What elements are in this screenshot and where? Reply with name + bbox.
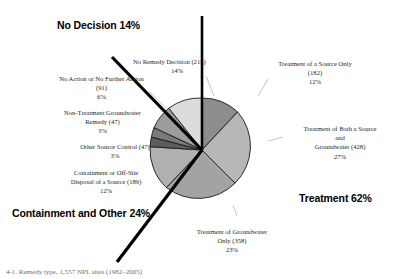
callout-no-action: No Action or No Further Action (91) 6% [33, 74, 170, 102]
callout-line: Containment or Off-Site [42, 168, 170, 177]
callout-line: and [284, 133, 396, 142]
callout-percent: 3% [60, 151, 170, 160]
group-heading-containment-and-other: Containment and Other 24% [12, 207, 150, 219]
callout-count: (182) [255, 68, 375, 77]
group-heading-no-decision: No Decision 14% [57, 19, 140, 31]
group-heading-treatment: Treatment 62% [299, 192, 372, 204]
callout-count: Groundwater (428) [284, 142, 396, 151]
callout-percent: 3% [35, 126, 170, 135]
callout-percent: 23% [171, 245, 293, 254]
callout-count: (91) [33, 83, 170, 92]
callout-treatment-groundwater-only: Treatment of Groundwater Only (358) 23% [171, 227, 293, 255]
callout-line: No Remedy Decision (215) [133, 57, 221, 66]
callout-line: Other Source Control (47) [60, 142, 170, 151]
callout-no-remedy-decision: No Remedy Decision (215) 14% [133, 57, 221, 75]
callout-line: Non-Treatment Groundwater [35, 108, 170, 117]
callout-line: No Action or No Further Action [33, 74, 170, 83]
callout-count: Remedy (47) [35, 117, 170, 126]
callout-line: Treatment of Groundwater [171, 227, 293, 236]
callout-line: Treatment of Both a Source [284, 124, 396, 133]
callout-treatment-source-only: Treatment of a Source Only (182) 12% [255, 59, 375, 87]
figure-caption: 4-1. Remedy type, 1,557 NPL sites (1982–… [6, 268, 142, 276]
callout-count: Only (358) [171, 236, 293, 245]
callout-treatment-both: Treatment of Both a Source and Groundwat… [284, 124, 396, 161]
callout-percent: 27% [284, 152, 396, 161]
callout-containment-offsite: Containment or Off-Site Disposal of a So… [42, 168, 170, 196]
callout-other-source-control: Other Source Control (47) 3% [60, 142, 170, 160]
callout-percent: 12% [255, 77, 375, 86]
chart-canvas: No Decision 14% Containment and Other 24… [0, 0, 400, 279]
callout-count: Disposal of a Source (189) [42, 177, 170, 186]
callout-percent: 6% [33, 92, 170, 101]
callout-percent: 12% [42, 186, 170, 195]
callout-non-treatment-groundwater: Non-Treatment Groundwater Remedy (47) 3% [35, 108, 170, 136]
callout-line: Treatment of a Source Only [255, 59, 375, 68]
